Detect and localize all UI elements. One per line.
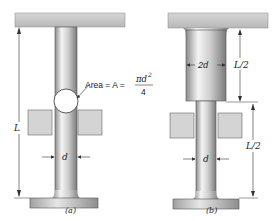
base-flange-a	[30, 198, 98, 208]
length-arrow-top-a	[17, 27, 21, 34]
upper-length-arrow-bottom-b	[238, 96, 242, 102]
top-plate-a	[15, 13, 125, 27]
lower-length-arrow-bottom-b	[251, 191, 255, 197]
cross-section-circle	[54, 89, 78, 113]
bolt-diagram: Area = A = πd 2 4 L d (a) 2d	[0, 0, 276, 221]
clamp-block-left-b	[170, 113, 194, 138]
upper-length-arrow-top-b	[238, 29, 242, 35]
lower-diameter-label-b: d	[203, 154, 209, 164]
clamp-block-left-a	[28, 110, 52, 135]
area-denominator: 4	[141, 87, 146, 97]
lower-length-label-b: L/2	[245, 141, 261, 151]
caption-a: (a)	[65, 206, 76, 215]
figure-a: Area = A = πd 2 4 L d (a)	[12, 13, 153, 215]
area-numerator: πd	[135, 74, 148, 84]
area-exponent: 2	[147, 71, 152, 78]
caption-b: (b)	[206, 206, 217, 215]
clamp-block-right-a	[78, 110, 102, 135]
area-formula-text: Area = A =	[85, 80, 125, 90]
lower-length-arrow-top-b	[251, 104, 255, 110]
upper-length-label-b: L/2	[233, 60, 249, 70]
clamp-block-right-b	[218, 113, 242, 138]
upper-diameter-label-b: 2d	[197, 60, 209, 70]
length-label-a: L	[13, 123, 20, 133]
figure-b: 2d L/2 L/2 d (b)	[168, 13, 268, 215]
length-arrow-bottom-a	[17, 190, 21, 197]
top-plate-b	[168, 13, 268, 28]
fillet-b	[193, 191, 219, 199]
diameter-label-a: d	[62, 152, 68, 162]
lower-rod-b	[196, 101, 216, 198]
fillet-a	[52, 190, 80, 198]
